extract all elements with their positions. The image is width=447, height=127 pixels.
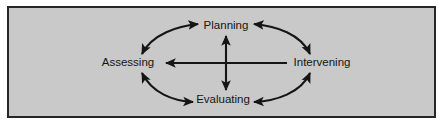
arc-planning-intervening: [254, 24, 310, 54]
node-label-intervening: Intervening: [294, 57, 351, 69]
node-label-evaluating: Evaluating: [196, 94, 250, 106]
figure-root: Planning Assessing Intervening Evaluatin…: [0, 0, 447, 127]
arc-assessing-planning: [142, 24, 198, 54]
arc-intervening-evaluating: [254, 73, 310, 102]
node-label-planning: Planning: [204, 20, 249, 32]
node-label-assessing: Assessing: [102, 57, 154, 69]
arc-evaluating-assessing: [142, 73, 193, 102]
